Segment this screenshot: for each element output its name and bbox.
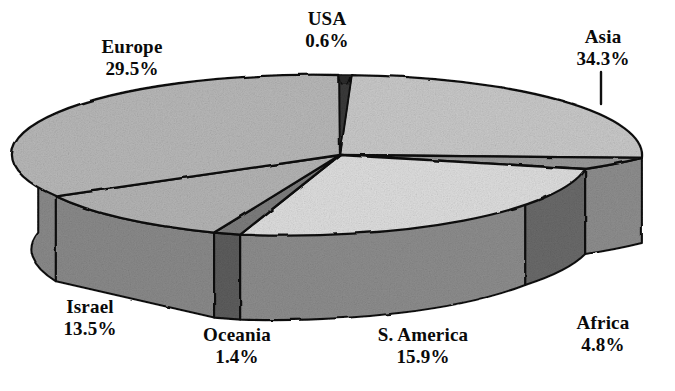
pie-label-africa-percent: 4.8% bbox=[540, 334, 666, 356]
pie-label-europe: Europe 29.5% bbox=[62, 36, 202, 81]
pie-label-israel: Israel 13.5% bbox=[30, 296, 150, 341]
pie-label-asia-percent: 34.3% bbox=[544, 48, 662, 70]
slice-side-oceania bbox=[214, 233, 240, 320]
slice-top-asia bbox=[340, 75, 642, 158]
pie-label-europe-name: Europe bbox=[62, 36, 202, 58]
pie-label-asia-name: Asia bbox=[544, 26, 662, 48]
pie-label-oceania: Oceania 1.4% bbox=[168, 324, 306, 369]
pie-label-samerica-name: S. America bbox=[340, 324, 506, 346]
pie-label-israel-percent: 13.5% bbox=[30, 318, 150, 340]
pie-label-samerica-percent: 15.9% bbox=[340, 346, 506, 368]
pie-label-africa-name: Africa bbox=[540, 312, 666, 334]
pie-label-oceania-name: Oceania bbox=[168, 324, 306, 346]
pie-label-asia: Asia 34.3% bbox=[544, 26, 662, 71]
pie-label-usa: USA 0.6% bbox=[268, 8, 386, 53]
pie-label-oceania-percent: 1.4% bbox=[168, 346, 306, 368]
pie-label-europe-percent: 29.5% bbox=[62, 58, 202, 80]
pie-label-samerica: S. America 15.9% bbox=[340, 324, 506, 369]
pie-chart: USA 0.6% Europe 29.5% Asia 34.3% Israel … bbox=[0, 0, 675, 391]
slice-side-asia bbox=[585, 158, 642, 254]
pie-label-usa-name: USA bbox=[268, 8, 386, 30]
pie-label-israel-name: Israel bbox=[30, 296, 150, 318]
pie-label-usa-percent: 0.6% bbox=[268, 30, 386, 52]
pie-label-africa: Africa 4.8% bbox=[540, 312, 666, 357]
